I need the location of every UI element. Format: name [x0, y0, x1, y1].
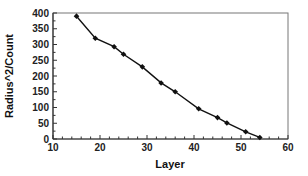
y-tick-label: 50: [38, 118, 50, 129]
plot-border: [53, 13, 288, 139]
y-tick-label: 200: [32, 71, 49, 82]
series-line: [77, 16, 260, 137]
y-axis-title: Radius^2/Count: [3, 34, 15, 118]
y-tick-label: 300: [32, 39, 49, 50]
x-tick-label: 50: [235, 142, 247, 153]
plot-area: [53, 13, 288, 139]
data-point-marker: [224, 120, 230, 126]
y-tick-label: 100: [32, 102, 49, 113]
x-axis-title: Layer: [155, 158, 185, 170]
x-tick-label: 40: [188, 142, 200, 153]
y-tick-label: 150: [32, 86, 49, 97]
x-tick-label: 10: [47, 142, 59, 153]
data-point-marker: [215, 115, 221, 121]
x-tick-label: 30: [141, 142, 153, 153]
x-tick-label: 20: [94, 142, 106, 153]
axis-ticks: [53, 13, 288, 139]
data-point-marker: [243, 129, 249, 135]
data-series: [74, 13, 263, 140]
y-axis-tick-labels: 050100150200250300350400: [32, 8, 49, 145]
y-tick-label: 250: [32, 55, 49, 66]
x-tick-label: 60: [282, 142, 294, 153]
line-chart: 050100150200250300350400 102030405060 La…: [0, 0, 308, 176]
y-tick-label: 350: [32, 23, 49, 34]
x-axis-tick-labels: 102030405060: [47, 142, 294, 153]
y-tick-label: 400: [32, 8, 49, 19]
